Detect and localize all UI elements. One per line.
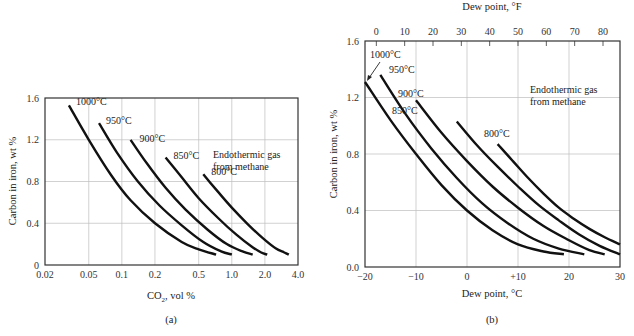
chart-a-caption: (a) bbox=[165, 314, 177, 326]
chart-a-curves bbox=[69, 105, 289, 254]
chart-a-x-tick-label: 2.0 bbox=[259, 269, 272, 280]
chart-a-x-tick-label: 0.2 bbox=[149, 269, 162, 280]
chart-a-y-tick-label: 1.6 bbox=[27, 93, 40, 104]
chart-b-annotation-line2: from methane bbox=[530, 96, 586, 107]
chart-b-top-x-tick-label: 70 bbox=[570, 26, 580, 37]
chart-b-curve-label: 950°C bbox=[389, 64, 415, 75]
chart-b-top-x-tick-label: 40 bbox=[485, 26, 495, 37]
chart-a-x-tick-label: 1.0 bbox=[226, 269, 239, 280]
chart-a-grid bbox=[45, 98, 298, 265]
chart-a-curve-label: 850°C bbox=[174, 150, 200, 161]
chart-b-y-tick-label: 0.8 bbox=[347, 149, 360, 160]
chart-b-x-tick-label: −10 bbox=[408, 271, 424, 282]
chart-b-x-tick-label: 20 bbox=[564, 271, 574, 282]
chart-a-x-tick-label: 0.05 bbox=[80, 269, 98, 280]
chart-a-curve-label: 950°C bbox=[106, 115, 132, 126]
chart-a-y-tick-label: 0.4 bbox=[27, 218, 40, 229]
chart-a-y-tick-label: 0 bbox=[34, 260, 39, 271]
chart-b-top-x-axis-label: Dew point, °F bbox=[462, 1, 521, 12]
chart-b-x-tick-label: 30 bbox=[615, 271, 625, 282]
chart-b-y-tick-label: 1.6 bbox=[347, 36, 360, 47]
figure: 0.020.050.10.20.51.02.04.0 00.40.81.21.6… bbox=[0, 0, 634, 336]
chart-a-y-axis-label: Carbon in iron, wt % bbox=[7, 137, 18, 226]
chart-a-x-tick-label: 4.0 bbox=[292, 269, 305, 280]
chart-a-curve-label: 900°C bbox=[140, 133, 166, 144]
chart-b-curve-900c bbox=[416, 100, 605, 254]
chart-b-top-x-tick-label: 80 bbox=[598, 26, 608, 37]
chart-b-top-x-tick-label: 20 bbox=[428, 26, 438, 37]
chart-b-x-tick-label: −20 bbox=[357, 271, 373, 282]
chart-b-y-tick-label: 0.4 bbox=[347, 205, 360, 216]
chart-b-curve-label: 1000°C bbox=[370, 49, 401, 60]
chart-b-leader-arrow bbox=[369, 62, 380, 78]
chart-b-annotation-line1: Endothermic gas bbox=[530, 84, 598, 95]
chart-b-top-x-tick-label: 30 bbox=[456, 26, 466, 37]
chart-a-y-tick-label: 0.8 bbox=[27, 176, 40, 187]
chart-b-y-axis-label: Carbon in iron, wt % bbox=[328, 110, 339, 199]
chart-b-y-tick-label: 0.0 bbox=[347, 262, 360, 273]
chart-a-x-tick-label: 0.02 bbox=[36, 269, 54, 280]
chart-a-annotation-line1: Endothermic gas bbox=[213, 149, 281, 160]
chart-b-caption: (b) bbox=[486, 314, 499, 326]
chart-a-y-tick-label: 1.2 bbox=[27, 134, 40, 145]
chart-b-top-x-tick-label: 60 bbox=[541, 26, 551, 37]
chart-b-x-ticks: −20−100+102030 bbox=[357, 271, 625, 282]
chart-b: −20−100+102030 01020304050607080 0.00.40… bbox=[328, 1, 625, 326]
chart-b-curve-label: 850°C bbox=[392, 105, 418, 116]
chart-a-curve-label: 1000°C bbox=[76, 96, 107, 107]
chart-a-x-ticks: 0.020.050.10.20.51.02.04.0 bbox=[36, 269, 304, 280]
arrow-head-icon bbox=[367, 75, 372, 81]
chart-b-top-x-tick-label: 0 bbox=[374, 26, 379, 37]
chart-b-x-tick-label: 0 bbox=[465, 271, 470, 282]
chart-b-y-ticks: 0.00.40.81.21.6 bbox=[347, 36, 360, 273]
chart-b-curve-label: 900°C bbox=[398, 88, 424, 99]
chart-b-top-x-tick-label: 50 bbox=[513, 26, 523, 37]
chart-a-x-axis-label: CO2, vol % bbox=[147, 290, 195, 304]
chart-b-x-axis-label: Dew point, °C bbox=[462, 288, 523, 299]
chart-a-curve-1000c bbox=[69, 105, 216, 254]
chart-a-x-tick-label: 0.5 bbox=[192, 269, 205, 280]
chart-b-y-tick-label: 1.2 bbox=[347, 92, 360, 103]
chart-a-annotation-line2: from methane bbox=[213, 161, 269, 172]
chart-a: 0.020.050.10.20.51.02.04.0 00.40.81.21.6… bbox=[7, 93, 304, 327]
chart-a-x-tick-label: 0.1 bbox=[116, 269, 129, 280]
chart-b-curve-label: 800°C bbox=[484, 128, 510, 139]
chart-a-y-ticks: 00.40.81.21.6 bbox=[27, 93, 40, 271]
chart-b-x-tick-label: +10 bbox=[510, 271, 526, 282]
chart-b-top-x-tick-label: 10 bbox=[400, 26, 410, 37]
chart-b-top-x-ticks: 01020304050607080 bbox=[374, 26, 608, 46]
